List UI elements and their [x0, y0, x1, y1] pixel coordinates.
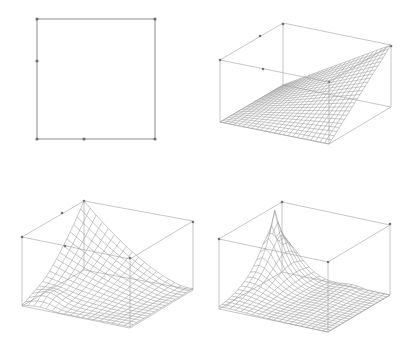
- control-point: [35, 59, 38, 62]
- box-vertex: [61, 212, 64, 215]
- wireframe-mesh: [219, 211, 390, 333]
- box-vertex: [282, 23, 285, 26]
- wireframe-mesh: [220, 45, 391, 144]
- box-vertex: [218, 238, 221, 241]
- control-point: [35, 137, 38, 140]
- bilinear-surface-panel: [219, 23, 393, 144]
- domain-square-panel: [35, 17, 156, 140]
- control-point: [82, 137, 85, 140]
- box-vertex: [219, 59, 222, 62]
- control-point: [153, 137, 156, 140]
- box-vertex: [192, 221, 195, 224]
- box-vertex: [327, 261, 330, 264]
- ridge-surface-panel: [21, 200, 195, 328]
- control-point: [35, 17, 38, 20]
- bounding-box: [219, 23, 393, 144]
- box-vertex: [259, 35, 262, 38]
- figure-canvas: [0, 0, 411, 355]
- control-point: [153, 17, 156, 20]
- box-vertex: [21, 236, 24, 239]
- box-vertex: [389, 223, 392, 226]
- spike-surface-panel: [218, 201, 392, 332]
- box-vertex: [281, 201, 284, 204]
- bounding-box: [21, 200, 195, 328]
- wireframe-mesh: [22, 201, 193, 327]
- box-vertex: [262, 68, 265, 71]
- domain-boundary: [37, 19, 155, 139]
